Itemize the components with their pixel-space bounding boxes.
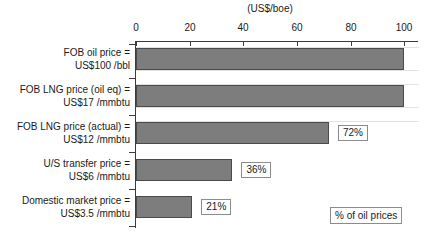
y-tick-mark-5 [129, 226, 135, 227]
y-tick-mark-4 [129, 189, 135, 190]
category-label-2: FOB LNG price (actual) = US$12 /mmbtu [0, 120, 130, 146]
y-tick-mark-2 [129, 115, 135, 116]
category-label-line2: US$100 /bbl [0, 59, 130, 72]
x-tick-label-80: 80 [336, 22, 366, 33]
plot-rule [136, 107, 419, 108]
category-label-line1: Domestic market price = [0, 194, 130, 207]
x-tick-mark-80 [351, 41, 352, 46]
x-tick-mark-60 [297, 41, 298, 46]
category-label-line2: US$3.5 /mmbtu [0, 207, 130, 220]
y-tick-mark-3 [129, 152, 135, 153]
category-label-line1: FOB oil price = [0, 46, 130, 59]
bar-chart: (US$/boe) 0 20 40 60 80 100 FOB oil pric… [0, 0, 426, 242]
bar-1 [136, 85, 404, 107]
x-tick-mark-20 [190, 41, 191, 46]
bar-2 [136, 122, 329, 144]
x-tick-mark-100 [404, 41, 405, 46]
plot-rule [136, 70, 419, 71]
data-label-box-3: 36% [241, 162, 271, 178]
category-label-line1: FOB LNG price (actual) = [0, 120, 130, 133]
x-tick-label-0: 0 [121, 22, 151, 33]
x-tick-label-60: 60 [282, 22, 312, 33]
bar-0 [136, 48, 404, 70]
x-axis-line [135, 41, 418, 42]
x-tick-label-100: 100 [389, 22, 419, 33]
category-label-line1: FOB LNG price (oil eq) = [0, 83, 130, 96]
category-label-line1: U/S transfer price = [0, 157, 130, 170]
bar-3 [136, 159, 232, 181]
y-tick-mark-0 [129, 44, 135, 45]
category-label-line2: US$6 /mmbtu [0, 170, 130, 183]
category-label-line2: US$17 /mmbtu [0, 96, 130, 109]
x-tick-mark-40 [243, 41, 244, 46]
category-label-line2: US$12 /mmbtu [0, 133, 130, 146]
category-label-4: Domestic market price = US$3.5 /mmbtu [0, 194, 130, 220]
bar-4 [136, 196, 192, 218]
category-label-3: U/S transfer price = US$6 /mmbtu [0, 157, 130, 183]
legend-box: % of oil prices [330, 207, 402, 224]
x-tick-mark-0 [136, 41, 137, 46]
x-tick-label-20: 20 [175, 22, 205, 33]
x-tick-label-40: 40 [228, 22, 258, 33]
data-label-box-4: 21% [201, 199, 231, 215]
y-tick-mark-1 [129, 78, 135, 79]
category-label-1: FOB LNG price (oil eq) = US$17 /mmbtu [0, 83, 130, 109]
category-label-0: FOB oil price = US$100 /bbl [0, 46, 130, 72]
data-label-box-2: 72% [338, 125, 368, 141]
x-axis-title: (US$/boe) [136, 3, 404, 14]
